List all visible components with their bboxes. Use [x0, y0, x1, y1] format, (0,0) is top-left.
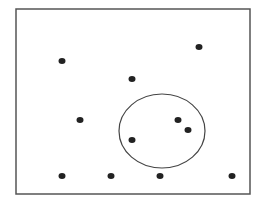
data-point: [59, 58, 66, 64]
data-point: [229, 173, 236, 179]
data-point: [175, 117, 182, 123]
bounding-frame: [16, 9, 250, 194]
data-point: [59, 173, 66, 179]
data-point: [108, 173, 115, 179]
data-point: [129, 137, 136, 143]
data-point: [185, 127, 192, 133]
point-group: [59, 44, 236, 179]
data-point: [129, 76, 136, 82]
data-point: [196, 44, 203, 50]
diagram-canvas: [0, 0, 263, 203]
cluster-circle: [119, 94, 205, 168]
data-point: [157, 173, 164, 179]
data-point: [77, 117, 84, 123]
